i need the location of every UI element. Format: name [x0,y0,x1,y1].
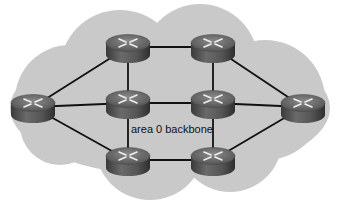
router-mid-left-icon [106,91,150,120]
router-bottom-right-icon [191,148,235,177]
area-label: area 0 backbone [131,123,213,135]
router-right-icon [281,95,325,124]
network-diagram [0,0,349,213]
router-bottom-left-icon [106,148,150,177]
router-top-right-icon [191,35,235,64]
router-left-icon [11,95,55,124]
router-mid-right-icon [191,91,235,120]
router-top-left-icon [106,35,150,64]
